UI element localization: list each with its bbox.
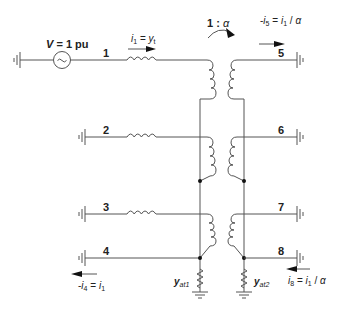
inductor-2 [127,134,156,137]
bus-label-1: 1 [103,47,109,59]
admittance-label-yat1: yat1 [173,276,189,288]
arrow-curved-icon [226,28,235,38]
bus-label-6: 6 [278,124,284,136]
ground-bottom-right [236,292,252,298]
arrow-right-icon [146,46,156,52]
transformer-1 [200,60,244,99]
bus-label-8: 8 [278,245,284,257]
current-label-i1: i1 = yt [131,33,156,45]
ground-right-bus8 [297,250,303,266]
current-label-i4: -i4 = i1 [78,280,105,292]
bus-label-2: 2 [103,124,109,136]
inductor-3 [127,211,156,214]
ground-right-bus6 [297,129,303,145]
bus-label-5: 5 [278,47,284,59]
admittance-label-yat2: yat2 [253,276,269,288]
junction-dot [198,179,202,183]
ground-left-bus4 [79,250,85,266]
source-label: V = 1 pu [46,38,89,50]
bus-label-3: 3 [103,201,109,213]
ac-source [54,52,71,69]
junction-dot [242,179,246,183]
inductor-yt [127,57,156,60]
transformer-2 [200,137,244,181]
ground-bottom-left [192,292,208,298]
ground-right-bus5 [297,52,303,68]
junction-dot [198,256,202,260]
ground-left-bus1 [14,52,20,68]
bus-label-4: 4 [103,245,110,257]
arrow-left-icon [286,266,297,272]
transformer-3 [200,214,244,258]
circuit-diagram: V = 1 pu 1 i1 = yt 5 1 : α -i5 = i1 / α … [0,0,344,321]
ground-left-bus2 [79,129,85,145]
ground-left-bus3 [79,206,85,222]
ground-right-bus7 [297,206,303,222]
current-label-i5: -i5 = i1 / α [260,15,301,27]
turns-ratio-label: 1 : α [207,17,230,29]
sine-icon [58,59,67,62]
current-label-i8: i8 = i1 / α [288,275,326,287]
arrow-left-icon [71,271,82,277]
bus-label-7: 7 [278,201,284,213]
